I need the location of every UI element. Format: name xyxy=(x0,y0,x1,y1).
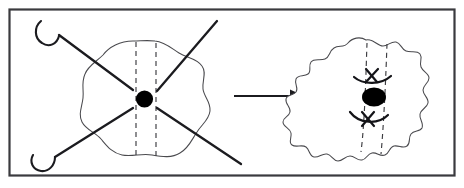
center-point-left xyxy=(136,90,153,107)
wound-closure-diagram: Wound closure tension diagram Two-panel … xyxy=(0,0,464,188)
figure-container: Wound closure tension diagram Two-panel … xyxy=(0,0,464,188)
center-point-right xyxy=(362,88,386,107)
